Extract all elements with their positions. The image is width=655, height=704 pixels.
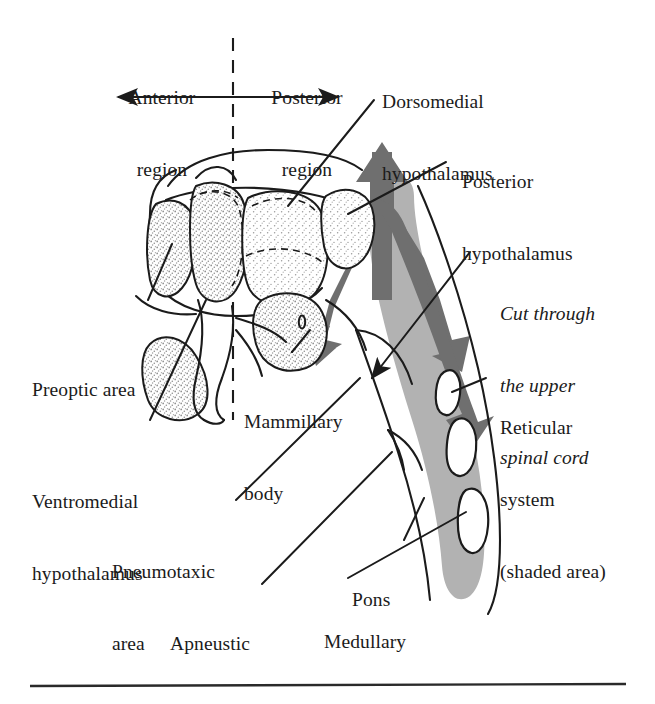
label-medullary-rhythmicity-area: Medullary rhythmicity area	[324, 582, 416, 704]
label-reticular-system-line1: Reticular	[500, 416, 606, 440]
label-apneustic-area: Apneustic area	[170, 584, 250, 704]
label-medullary-line1: Medullary	[324, 630, 416, 654]
label-anterior-region: Anterior region	[102, 38, 222, 230]
label-posterior-hypothalamus-line1: Posterior	[462, 170, 573, 194]
label-mammillary-body: Mammillary body	[244, 362, 342, 554]
label-posterior-region: Posterior region	[244, 38, 370, 230]
label-ventromedial-hypothalamus-line1: Ventromedial	[32, 490, 143, 514]
label-anterior-region-line1: Anterior	[102, 86, 222, 110]
label-anterior-region-line2: region	[102, 158, 222, 182]
label-mammillary-body-line1: Mammillary	[244, 410, 342, 434]
label-apneustic-area-line1: Apneustic	[170, 632, 250, 656]
label-preoptic-area: Preoptic area	[32, 330, 136, 450]
label-reticular-system: Reticular system (shaded area)	[500, 368, 606, 632]
label-preoptic-area-line1: Preoptic area	[32, 378, 136, 402]
label-dorsomedial-hypothalamus-line1: Dorsomedial	[382, 90, 493, 114]
label-posterior-region-line1: Posterior	[244, 86, 370, 110]
label-reticular-system-line3: (shaded area)	[500, 560, 606, 584]
figure-root: Anterior region Posterior region Dorsome…	[0, 0, 655, 704]
label-reticular-system-line2: system	[500, 488, 606, 512]
label-posterior-region-line2: region	[244, 158, 370, 182]
label-cut-line1: Cut through	[500, 302, 595, 326]
label-pneumotaxic-area-line1: Pneumotaxic	[112, 560, 215, 584]
label-mammillary-body-line2: body	[244, 482, 342, 506]
